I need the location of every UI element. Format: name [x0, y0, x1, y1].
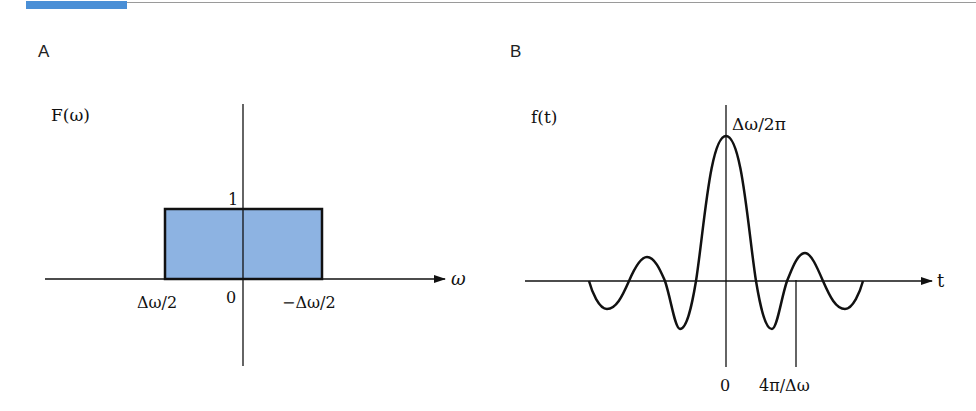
panel-b-y-label: f(t) — [531, 107, 557, 127]
left-edge-label: Δω/2 — [137, 293, 177, 312]
panel-b-x-label: t — [937, 270, 945, 291]
right-edge-label: −Δω/2 — [282, 293, 336, 312]
panel-b-plot: f(t) t Δω/2π 0 4π/Δω — [525, 105, 945, 395]
peak-label: Δω/2π — [732, 114, 786, 134]
origin-label-b: 0 — [720, 376, 730, 395]
marker-label: 4π/Δω — [759, 376, 810, 395]
origin-label-a: 0 — [226, 288, 236, 307]
panel-a-plot: F(ω) ω 1 0 Δω/2 −Δω/2 — [45, 104, 466, 366]
tick-label-1: 1 — [228, 190, 238, 209]
panel-a-x-label: ω — [451, 268, 466, 289]
figure-canvas: F(ω) ω 1 0 Δω/2 −Δω/2 f(t) t Δω/2π 0 4π/… — [0, 0, 976, 411]
panel-a-y-label: F(ω) — [51, 105, 90, 125]
